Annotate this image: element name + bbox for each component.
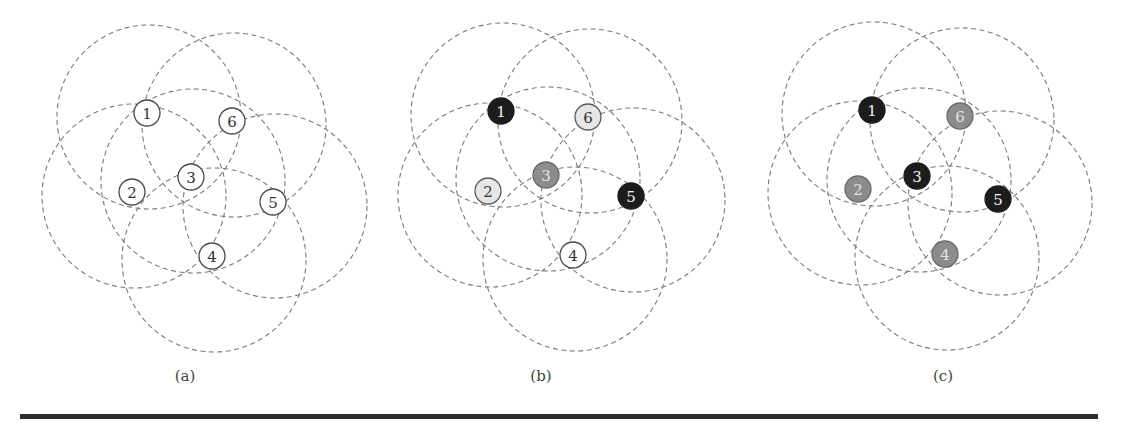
- node-5: 5: [618, 183, 644, 209]
- node-label: 2: [853, 181, 863, 199]
- panel-b-nodes: 123456: [475, 98, 644, 268]
- node-label: 6: [227, 113, 237, 131]
- node-label: 3: [912, 168, 922, 186]
- node-label: 4: [940, 246, 950, 264]
- node-5: 5: [260, 189, 286, 215]
- node-label: 2: [483, 183, 493, 201]
- nodes-layer: 123456123456123456: [119, 97, 1011, 269]
- node-6: 6: [219, 108, 245, 134]
- node-5: 5: [985, 186, 1011, 212]
- network-diagram: 123456123456123456: [0, 0, 1128, 425]
- node-label: 6: [583, 109, 593, 127]
- node-label: 4: [207, 248, 217, 266]
- panel-label-c: (c): [933, 367, 953, 385]
- node-label: 1: [496, 103, 506, 121]
- node-label: 1: [142, 105, 152, 123]
- node-1: 1: [859, 97, 885, 123]
- node-label: 2: [127, 184, 137, 202]
- node-3: 3: [904, 163, 930, 189]
- panel-label-a: (a): [175, 367, 196, 385]
- node-label: 3: [186, 169, 196, 187]
- node-6: 6: [575, 104, 601, 130]
- panel-b-ranges: [398, 23, 725, 351]
- node-6: 6: [947, 103, 973, 129]
- node-3: 3: [178, 164, 204, 190]
- node-2: 2: [475, 178, 501, 204]
- node-4: 4: [199, 243, 225, 269]
- node-label: 1: [867, 102, 877, 120]
- node-3: 3: [533, 162, 559, 188]
- node-label: 5: [626, 188, 636, 206]
- panel-c-nodes: 123456: [845, 97, 1011, 267]
- bottom-rule: [20, 414, 1098, 419]
- node-2: 2: [119, 179, 145, 205]
- node-label: 3: [541, 167, 551, 185]
- node-4: 4: [560, 242, 586, 268]
- node-label: 6: [955, 108, 965, 126]
- node-1: 1: [134, 100, 160, 126]
- panel-label-b: (b): [530, 367, 551, 385]
- node-2: 2: [845, 176, 871, 202]
- panel-a-ranges: [42, 25, 367, 352]
- panel-c-ranges: [768, 22, 1092, 350]
- node-label: 5: [993, 191, 1003, 209]
- node-label: 4: [568, 247, 578, 265]
- node-4: 4: [932, 241, 958, 267]
- node-label: 5: [268, 194, 278, 212]
- node-1: 1: [488, 98, 514, 124]
